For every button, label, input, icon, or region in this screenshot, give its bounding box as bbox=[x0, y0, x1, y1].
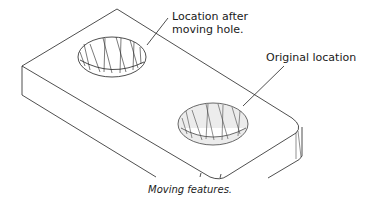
label-original: Original location bbox=[266, 51, 356, 64]
hole-moved bbox=[78, 37, 146, 77]
label-moved-line2: moving hole. bbox=[172, 23, 248, 36]
plate-front-bottom-edge bbox=[22, 95, 156, 177]
label-moved: Location after moving hole. bbox=[172, 10, 248, 36]
label-moved-line1: Location after bbox=[172, 10, 248, 23]
hole-original bbox=[178, 103, 248, 145]
figure-caption: Moving features. bbox=[148, 184, 232, 195]
leader-moved bbox=[147, 18, 168, 45]
plate-top-face bbox=[22, 9, 299, 179]
